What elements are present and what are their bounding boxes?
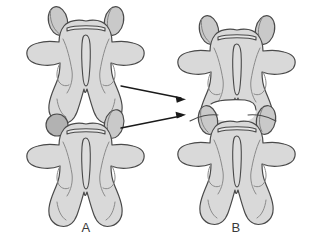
- panel-label-a: A: [82, 220, 91, 235]
- vertebra-body-lower: [178, 121, 295, 224]
- panel-a-vertebra-upper: [27, 5, 144, 124]
- vertebra-body-upper: [27, 20, 144, 123]
- panel-label-b: B: [232, 220, 241, 235]
- anatomical-figure: .bone-main{fill:#d9d9d9;stroke:#4a4a4a;s…: [0, 0, 313, 247]
- panel-a-vertebra-lower: [27, 108, 144, 227]
- panel-b-vertebra-lower: [178, 104, 295, 224]
- vertebrae-illustration: .bone-main{fill:#d9d9d9;stroke:#4a4a4a;s…: [0, 0, 313, 247]
- vertebra-body-lower: [27, 123, 144, 226]
- arrow-upper: [121, 86, 186, 103]
- arrow-lower: [121, 112, 186, 128]
